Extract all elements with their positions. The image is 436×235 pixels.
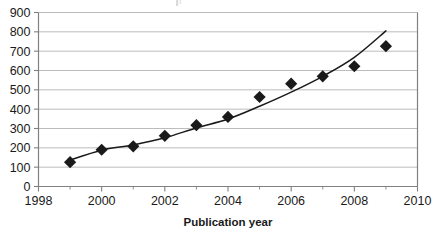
y-tick-label-600: 600	[10, 64, 31, 78]
x-tick-label-1998: 1998	[25, 194, 53, 208]
y-tick-label-400: 400	[10, 103, 31, 117]
x-tick-label-2004: 2004	[214, 194, 242, 208]
x-tick-label-2002: 2002	[151, 194, 179, 208]
y-tick-label-900: 900	[10, 6, 31, 20]
y-tick-label-500: 500	[10, 83, 31, 97]
y-tick-label-0: 0	[24, 180, 31, 194]
x-tick-label-2000: 2000	[88, 194, 116, 208]
x-tick-label-2006: 2006	[277, 194, 305, 208]
y-tick-label-700: 700	[10, 45, 31, 59]
y-tick-label-300: 300	[10, 122, 31, 136]
y-tick-label-100: 100	[10, 161, 31, 175]
y-tick-label-200: 200	[10, 141, 31, 155]
x-tick-label-2010: 2010	[404, 194, 432, 208]
publication-year-scatter-chart: 0100200300400500600700800900 19982000200…	[0, 0, 436, 235]
chart-container: 0100200300400500600700800900 19982000200…	[0, 0, 436, 235]
x-tick-label-2008: 2008	[340, 194, 368, 208]
y-tick-label-800: 800	[10, 25, 31, 39]
x-axis-title: Publication year	[184, 216, 273, 228]
